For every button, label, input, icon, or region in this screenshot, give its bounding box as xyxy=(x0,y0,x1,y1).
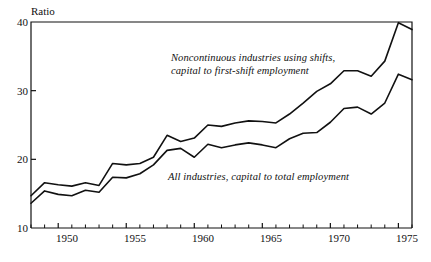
plot-area xyxy=(0,0,431,262)
series-line-noncontinuous xyxy=(31,23,412,196)
y-axis-ticks xyxy=(31,91,36,160)
chart-container: Ratio 40 30 20 10 1950 1955 1960 1965 19… xyxy=(0,0,431,262)
axis-frame xyxy=(31,22,412,228)
x-axis-ticks xyxy=(31,223,412,228)
